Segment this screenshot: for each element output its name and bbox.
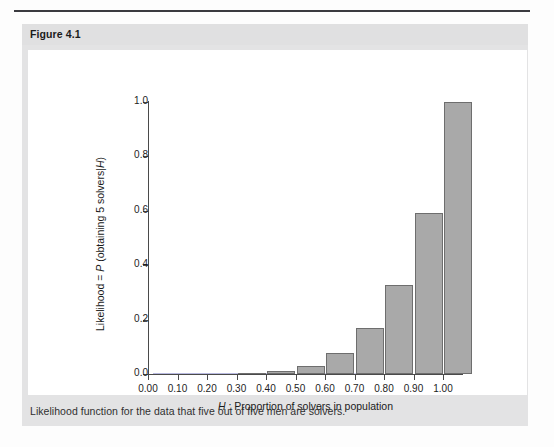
scanned-page: Figure 4.1 0.00.20.40.60.81.0 0.000.100.… bbox=[0, 0, 554, 447]
y-tick-label: 0.0 bbox=[120, 367, 148, 378]
bar-chart: 0.00.20.40.60.81.0 0.000.100.200.300.400… bbox=[28, 50, 527, 395]
figure-number-label: Figure 4.1 bbox=[30, 28, 81, 40]
y-tick-label: 0.6 bbox=[120, 204, 148, 215]
bar bbox=[385, 285, 413, 374]
x-tick-label: 1.00 bbox=[423, 383, 463, 394]
bar bbox=[326, 353, 354, 374]
x-tick-mark bbox=[266, 375, 267, 380]
x-tick-mark bbox=[384, 375, 385, 380]
x-tick-mark bbox=[148, 375, 149, 380]
y-tick-label: 1.0 bbox=[120, 95, 148, 106]
bar bbox=[297, 366, 325, 375]
x-tick-mark bbox=[355, 375, 356, 380]
bar bbox=[444, 102, 472, 374]
plot-card: 0.00.20.40.60.81.0 0.000.100.200.300.400… bbox=[28, 50, 527, 395]
figure-panel: Figure 4.1 0.00.20.40.60.81.0 0.000.100.… bbox=[22, 24, 528, 426]
y-tick-label: 0.8 bbox=[120, 149, 148, 160]
bar bbox=[356, 328, 384, 374]
y-axis-title: Likelihood = P (obtaining 5 solvers|H) bbox=[94, 114, 106, 374]
figure-header-band: Figure 4.1 bbox=[22, 24, 528, 45]
y-tick-label: 0.2 bbox=[120, 313, 148, 324]
x-tick-mark bbox=[296, 375, 297, 380]
x-axis-line bbox=[148, 374, 463, 375]
x-tick-mark bbox=[237, 375, 238, 380]
figure-caption: Likelihood function for the data that fi… bbox=[30, 405, 510, 417]
x-tick-mark bbox=[414, 375, 415, 380]
y-tick-label: 0.4 bbox=[120, 258, 148, 269]
y-axis-line bbox=[148, 101, 149, 375]
page-top-rule bbox=[14, 10, 530, 12]
x-tick-mark bbox=[325, 375, 326, 380]
x-tick-mark bbox=[178, 375, 179, 380]
x-tick-mark bbox=[443, 375, 444, 380]
x-tick-mark bbox=[207, 375, 208, 380]
bar bbox=[415, 213, 443, 374]
